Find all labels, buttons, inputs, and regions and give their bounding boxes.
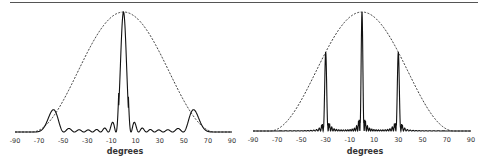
chart-1: -90-70-50-30-101030507090 degrees — [0, 0, 243, 165]
chart-1-x-ticks: -90-70-50-30-101030507090 — [10, 137, 236, 145]
x-tick-label: -10 — [106, 137, 117, 145]
x-tick-label: 70 — [443, 136, 451, 144]
x-tick-label: -90 — [10, 137, 21, 145]
x-tick-label: -70 — [272, 136, 283, 144]
x-tick-label: -90 — [248, 136, 259, 144]
chart-1-array-pattern — [15, 12, 232, 132]
chart-1-envelope-dashed — [15, 12, 232, 132]
chart-2-array-pattern — [253, 12, 471, 131]
x-tick-label: 50 — [180, 137, 188, 145]
chart-2-x-ticks: -90-70-50-30-101030507090 — [248, 136, 475, 144]
chart-2-plot — [253, 12, 471, 131]
x-tick-label: -70 — [34, 137, 45, 145]
x-tick-label: -10 — [345, 136, 356, 144]
x-tick-label: 30 — [394, 136, 402, 144]
chart-1-x-axis-label: degrees — [107, 147, 144, 156]
x-tick-label: -50 — [296, 136, 307, 144]
x-tick-label: 90 — [228, 137, 236, 145]
x-tick-label: 10 — [370, 136, 378, 144]
x-tick-label: 10 — [131, 137, 139, 145]
x-tick-label: 30 — [156, 137, 164, 145]
x-tick-label: -50 — [58, 137, 69, 145]
x-tick-label: 70 — [204, 137, 212, 145]
x-tick-label: -30 — [320, 136, 331, 144]
x-tick-label: 50 — [418, 136, 426, 144]
chart-2-x-axis-label: degrees — [347, 147, 384, 156]
x-tick-label: 90 — [467, 136, 475, 144]
x-tick-label: -30 — [82, 137, 93, 145]
chart-1-plot — [15, 12, 232, 132]
chart-2: -90-70-50-30-101030507090 degrees — [243, 0, 487, 165]
